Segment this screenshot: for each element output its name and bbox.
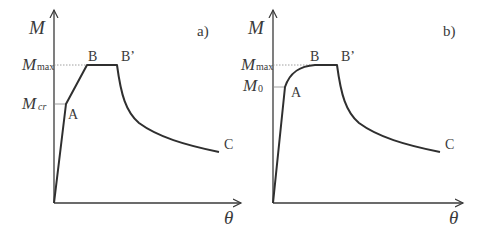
panel-tag: a) [197, 23, 209, 40]
x-axis-label: θ [449, 207, 458, 228]
x-axis-label: θ [224, 207, 233, 228]
point-b-label: B [88, 49, 97, 64]
point-a-label: A [68, 107, 79, 122]
point-b-prime-label: B’ [341, 49, 355, 64]
point-c-label: C [445, 137, 454, 152]
diagram-canvas: M θ a) M max M cr A B B’ C M θ b) M max … [0, 0, 482, 237]
m-cr-label: M [21, 94, 37, 113]
m-0-label: M [242, 76, 258, 95]
m-max-subscript: max [37, 61, 54, 72]
m-cr-subscript: cr [38, 101, 46, 112]
point-c-label: C [224, 137, 233, 152]
moment-rotation-curve-a [54, 65, 219, 203]
y-axis-label: M [247, 17, 265, 38]
m-0-subscript: 0 [258, 83, 263, 94]
point-b-prime-label: B’ [121, 49, 135, 64]
y-axis-label: M [28, 17, 46, 38]
m-max-label: M [240, 55, 256, 74]
panel-b: M θ b) M max M 0 A B B’ C [240, 10, 463, 228]
panel-tag: b) [443, 23, 456, 40]
panel-a: M θ a) M max M cr A B B’ C [21, 10, 241, 228]
m-max-subscript: max [256, 61, 273, 72]
point-a-label: A [291, 85, 302, 100]
m-max-label: M [21, 55, 37, 74]
point-b-label: B [310, 49, 319, 64]
